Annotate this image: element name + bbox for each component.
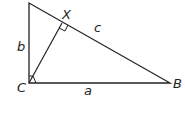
altitude-cx — [29, 23, 62, 83]
label-a-side: a — [84, 83, 92, 98]
triangle-diagram: X c b C a B — [0, 0, 185, 117]
label-c-side: c — [94, 20, 101, 35]
label-b-side: b — [17, 39, 25, 54]
label-c-vertex: C — [17, 80, 27, 95]
label-x: X — [61, 7, 72, 22]
label-b-vertex: B — [173, 76, 182, 91]
triangle-outline — [29, 3, 170, 83]
